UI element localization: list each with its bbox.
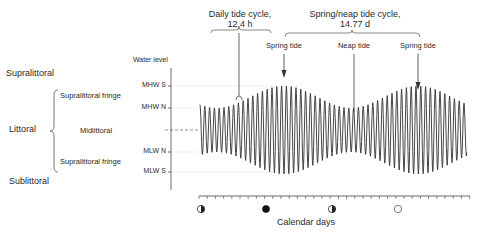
daily-cycle-title: Daily tide cycle, [200,9,280,19]
zone-brace [50,90,58,172]
springneap-cycle-title: Spring/neap tide cycle, [300,9,410,19]
daily-cycle-label: Daily tide cycle, 12.4 h [200,9,280,29]
daily-cycle-value: 12.4 h [200,19,280,29]
last-quarter-moon-icon [328,205,335,212]
spring-tide-label-1: Spring tide [264,41,304,50]
springneap-cycle-value: 14.77 d [300,19,410,29]
zone-supralittoral: Supralittoral [6,68,54,78]
springneap-cycle-label: Spring/neap tide cycle, 14.77 d [300,9,410,29]
calendar-days-label: Calendar days [277,217,335,227]
tide-figure [0,0,480,236]
zone-lower-fringe: Supralittoral fringe [60,157,121,166]
zone-sublittoral: Sublittoral [9,176,49,186]
first-quarter-moon-icon [197,205,204,212]
spring-tide-label-2: Spring tide [398,41,438,50]
calendar-axis [199,196,470,199]
water-level-label: Water level [133,56,168,63]
full-moon-icon [394,205,401,212]
mhwn-label: MHW N [142,103,167,110]
mlwn-label: MLW N [143,147,166,154]
mlws-label: MLW S [144,167,166,174]
zone-midlittoral: Midlittoral [80,126,112,135]
neap-tide-label: Neap tide [334,41,374,50]
new-moon-icon [262,205,270,213]
spring-tide-arrow-2 [416,54,421,90]
springneap-cycle-brace [285,30,420,37]
spring-tide-arrow-1 [282,54,287,78]
tide-diagram: Supralittoral Littoral Sublittoral Supra… [0,0,480,236]
tide-waveform [200,86,467,174]
zone-upper-fringe: Supralittoral fringe [60,91,121,100]
mhws-label: MHW S [142,81,166,88]
zone-littoral: Littoral [9,124,36,134]
